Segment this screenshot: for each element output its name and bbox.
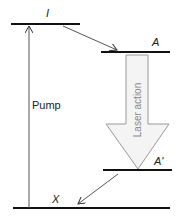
a-prime-to-x-arrow	[78, 174, 118, 204]
i-to-a-arrow	[63, 26, 117, 50]
level-x-label: X	[51, 193, 60, 205]
level-a-label: A	[151, 36, 159, 48]
level-a-prime-label: A'	[153, 155, 164, 167]
level-i-label: I	[46, 7, 49, 19]
laser-action-label: Laser action	[132, 83, 143, 137]
energy-level-diagram: I A A' X Pump Laser action	[0, 0, 185, 221]
pump-label: Pump	[32, 99, 61, 111]
